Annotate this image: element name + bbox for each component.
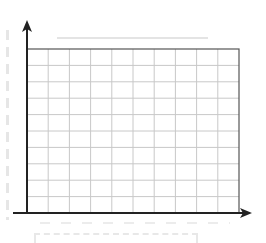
grid-lines (27, 49, 239, 213)
